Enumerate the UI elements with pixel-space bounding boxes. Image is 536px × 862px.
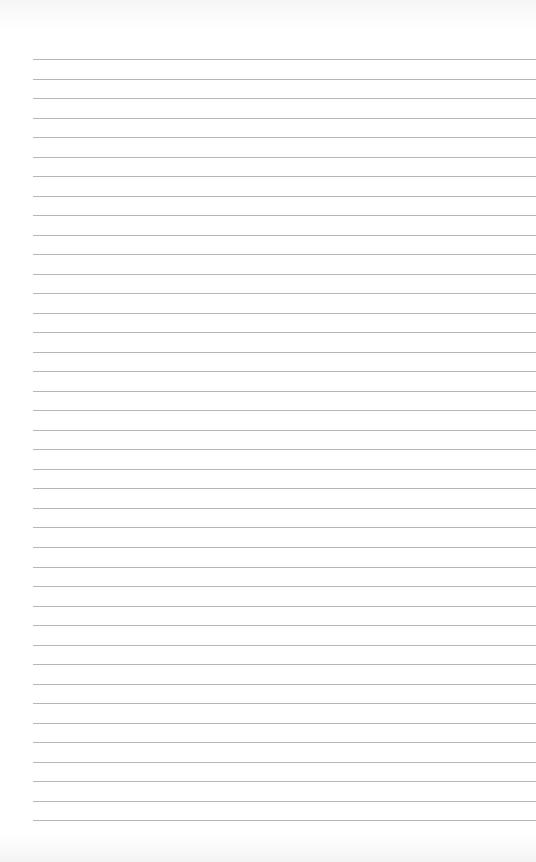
ruled-line — [33, 118, 536, 119]
ruled-line — [33, 79, 536, 80]
ruled-line — [33, 547, 536, 548]
ruled-line — [33, 157, 536, 158]
ruled-line — [33, 762, 536, 763]
ruled-line — [33, 352, 536, 353]
ruled-line — [33, 703, 536, 704]
ruled-line — [33, 215, 536, 216]
ruled-line — [33, 606, 536, 607]
ruled-line — [33, 469, 536, 470]
ruled-line — [33, 567, 536, 568]
ruled-line — [33, 235, 536, 236]
ruled-line — [33, 527, 536, 528]
ruled-line — [33, 488, 536, 489]
ruled-line — [33, 645, 536, 646]
ruled-line — [33, 254, 536, 255]
ruled-line — [33, 274, 536, 275]
ruled-line — [33, 586, 536, 587]
ruled-line — [33, 59, 536, 60]
ruled-line — [33, 332, 536, 333]
ruled-line — [33, 508, 536, 509]
ruled-line — [33, 176, 536, 177]
ruled-line — [33, 723, 536, 724]
ruled-line — [33, 430, 536, 431]
ruled-line — [33, 137, 536, 138]
ruled-line — [33, 820, 536, 821]
ruled-line — [33, 664, 536, 665]
ruled-line — [33, 742, 536, 743]
ruled-line — [33, 196, 536, 197]
ruled-line — [33, 625, 536, 626]
ruled-line — [33, 371, 536, 372]
ruled-line — [33, 410, 536, 411]
ruled-line — [33, 98, 536, 99]
ruled-line — [33, 684, 536, 685]
lined-paper-page — [0, 0, 536, 862]
ruled-line — [33, 781, 536, 782]
ruled-line — [33, 391, 536, 392]
ruled-line — [33, 313, 536, 314]
ruled-line — [33, 801, 536, 802]
ruled-line — [33, 293, 536, 294]
ruled-line — [33, 449, 536, 450]
